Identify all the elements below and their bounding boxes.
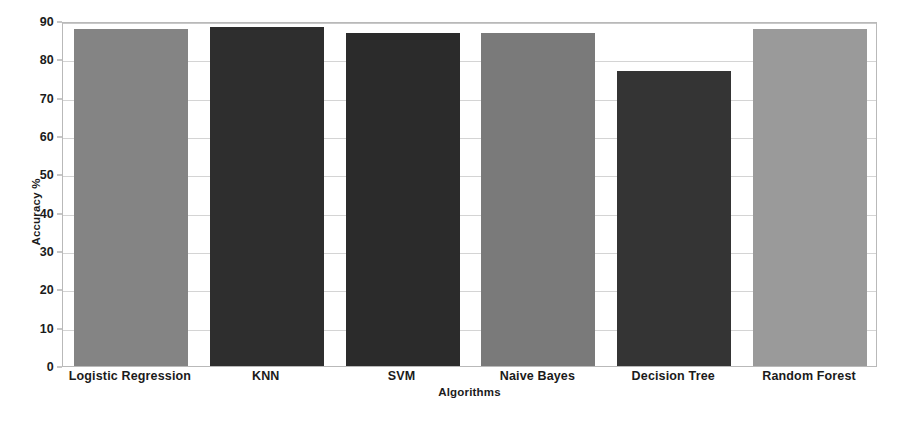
x-axis-tick-label: SVM: [334, 369, 470, 383]
y-axis-tick-label: 10: [40, 322, 54, 336]
bar-slot: [335, 23, 471, 366]
x-axis-tick-label: Logistic Regression: [62, 369, 198, 383]
y-axis-tick-label: 60: [40, 130, 54, 144]
y-axis-tick-label: 80: [40, 53, 54, 67]
bar-slot: [199, 23, 335, 366]
y-axis-tick-label: 0: [47, 360, 54, 374]
y-axis-tick-label: 30: [40, 245, 54, 259]
y-axis-tick-label: 90: [40, 15, 54, 29]
x-axis-title: Algorithms: [62, 386, 877, 398]
bar[interactable]: [753, 29, 867, 366]
bar[interactable]: [617, 71, 731, 366]
y-axis-tick-label: 20: [40, 283, 54, 297]
plot-area: [62, 22, 877, 367]
y-axis-tick-group: 0102030405060708090: [0, 22, 62, 367]
bar-slot: [606, 23, 742, 366]
bar-slot: [742, 23, 878, 366]
x-axis-tick-label: Random Forest: [741, 369, 877, 383]
x-axis-tick-label: KNN: [198, 369, 334, 383]
bar[interactable]: [481, 33, 595, 367]
bar[interactable]: [74, 29, 188, 366]
y-axis-tick-label: 70: [40, 92, 54, 106]
y-axis-tick-label: 50: [40, 168, 54, 182]
x-axis-tick-label: Naive Bayes: [470, 369, 606, 383]
bar[interactable]: [210, 27, 324, 366]
bars-layer: [63, 23, 876, 366]
bar[interactable]: [346, 33, 460, 367]
bar-slot: [63, 23, 199, 366]
bar-chart-screenshot: Accuracy % 0102030405060708090 Logistic …: [0, 0, 907, 423]
bar-slot: [471, 23, 607, 366]
y-axis-tick-label: 40: [40, 207, 54, 221]
x-axis-tick-label: Decision Tree: [605, 369, 741, 383]
